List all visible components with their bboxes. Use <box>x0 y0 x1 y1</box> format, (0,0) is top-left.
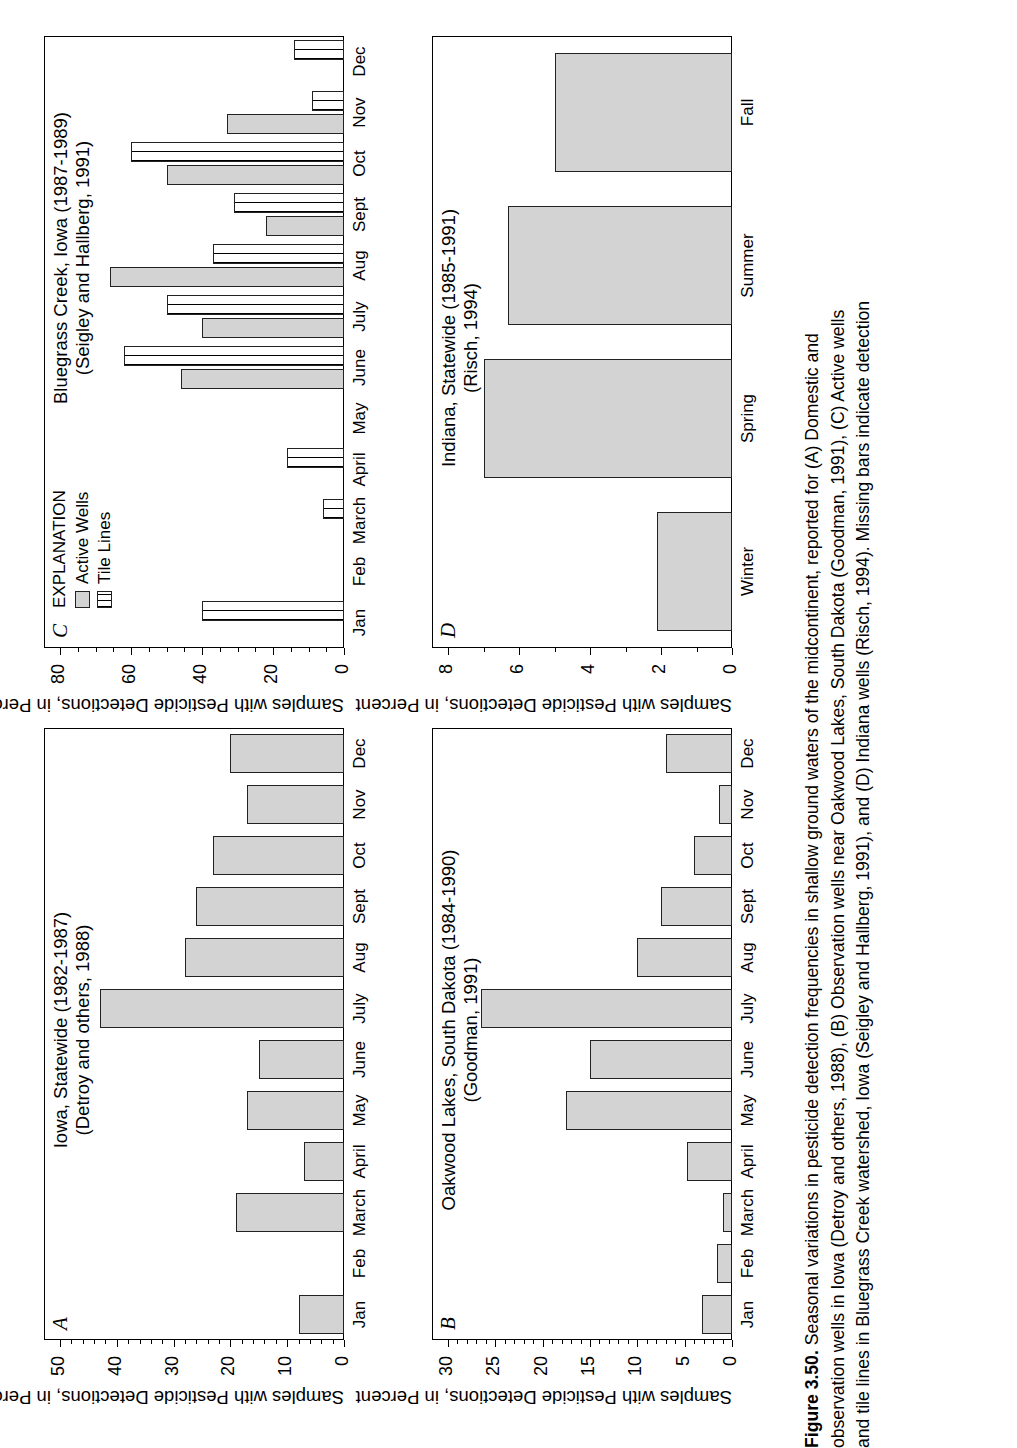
category-label: March <box>738 1187 758 1238</box>
bar <box>213 244 344 264</box>
panel-a-tick-minor <box>71 1340 72 1345</box>
panel-a-tick-minor <box>196 1340 197 1345</box>
panel-b-tick-minor <box>505 1340 506 1345</box>
panel-c-tick-major <box>344 648 345 655</box>
category-label: July <box>350 291 370 342</box>
panel-d: D Indiana, Statewide (1985-1991) (Risch,… <box>432 36 732 648</box>
bar <box>202 318 344 338</box>
panel-b-tick-major <box>685 1340 686 1347</box>
panel-d-axis-title: Samples with Pesticide Detections, in Pe… <box>356 694 732 716</box>
panel-d-tick-major <box>590 648 591 655</box>
panel-b-letter: B <box>436 1317 461 1330</box>
bar <box>304 1142 344 1182</box>
panel-c-tick-major <box>273 648 274 655</box>
panel-d-tick-minor <box>697 648 698 653</box>
category-label: Sept <box>350 189 370 240</box>
category-label: Oct <box>350 830 370 881</box>
panel-c-tick-minor <box>184 648 185 653</box>
panel-b-tick-minor <box>552 1340 553 1345</box>
panel-b: B Oakwood Lakes, South Dakota (1984-1990… <box>432 728 732 1340</box>
category-label: April <box>350 444 370 495</box>
category-label: March <box>350 1187 370 1238</box>
panel-b-tick-minor <box>704 1340 705 1345</box>
panel-a-tick-major <box>230 1340 231 1347</box>
panel-a-tick-minor <box>162 1340 163 1345</box>
panel-c-tick-minor <box>78 648 79 653</box>
bar <box>247 785 344 825</box>
panel-c-tick-minor <box>220 648 221 653</box>
panel-d-tick-minor <box>484 648 485 653</box>
bar <box>299 1295 344 1335</box>
panel-c-tick-major <box>202 648 203 655</box>
panel-a-letter: A <box>48 1317 73 1330</box>
panel-b-title: Oakwood Lakes, South Dakota (1984-1990) <box>438 750 460 1310</box>
panel-b-subtitle: (Goodman, 1991) <box>460 750 482 1310</box>
panel-a-tick-minor <box>321 1340 322 1345</box>
panel-b-tick-minor <box>694 1340 695 1345</box>
caption-text-1: Seasonal variations in pesticide detecti… <box>802 333 822 1345</box>
panel-c-tick-minor <box>113 648 114 653</box>
bar <box>234 193 344 213</box>
bar <box>312 91 344 111</box>
category-label: Sept <box>350 881 370 932</box>
bar <box>110 267 344 287</box>
legend-item-tile-lines: Tile Lines <box>95 490 114 608</box>
rotated-page: A Iowa, Statewide (1982-1987) (Detroy an… <box>0 0 1017 1448</box>
category-label: June <box>738 1034 758 1085</box>
category-label: March <box>350 495 370 546</box>
category-label: June <box>350 1034 370 1085</box>
legend-swatch-tile-lines-icon <box>97 591 112 608</box>
panel-a-tick-minor <box>185 1340 186 1345</box>
category-label: July <box>738 983 758 1034</box>
category-label: Dec <box>350 728 370 779</box>
category-label: July <box>350 983 370 1034</box>
category-label: Jan <box>350 1289 370 1340</box>
figure-number: Figure 3.50. <box>802 1350 822 1448</box>
figure-sheet: A Iowa, Statewide (1982-1987) (Detroy an… <box>0 0 1017 1448</box>
category-label: Feb <box>738 1238 758 1289</box>
category-label: Fall <box>738 36 758 189</box>
panel-b-tick-major <box>637 1340 638 1347</box>
category-label: Dec <box>350 36 370 87</box>
panel-a-tick-minor <box>94 1340 95 1345</box>
bar <box>131 142 344 162</box>
category-label: Summer <box>738 189 758 342</box>
panel-a-tick-minor <box>299 1340 300 1345</box>
panel-c-tick-minor <box>255 648 256 653</box>
panel-b-tick-minor <box>581 1340 582 1345</box>
bar <box>637 938 732 978</box>
bar <box>213 836 344 876</box>
panel-b-tick-minor <box>467 1340 468 1345</box>
bar <box>661 887 732 927</box>
panel-b-tick-minor <box>675 1340 676 1345</box>
panel-a-tick-minor <box>276 1340 277 1345</box>
legend-label-tile-lines: Tile Lines <box>95 512 115 584</box>
bar <box>723 1193 732 1233</box>
caption-line-2: observation wells in Iowa (Detroy and ot… <box>826 28 852 1448</box>
category-label: Nov <box>738 779 758 830</box>
panel-a-tick-minor <box>333 1340 334 1345</box>
bar <box>124 346 344 366</box>
panel-d-letter: D <box>436 623 461 638</box>
legend-swatch-active-wells-icon <box>75 591 90 608</box>
panel-b-tick-major <box>732 1340 733 1347</box>
bar <box>294 40 344 60</box>
bar <box>481 989 732 1029</box>
bar <box>666 734 732 774</box>
caption-line-3: and tile lines in Bluegrass Creek waters… <box>851 28 877 1448</box>
bar <box>687 1142 732 1182</box>
panel-d-title: Indiana, Statewide (1985-1991) <box>438 128 460 548</box>
panel-a-tick-minor <box>253 1340 254 1345</box>
legend: EXPLANATION Active Wells Tile Lines <box>50 490 114 608</box>
panel-d-tick-minor <box>626 648 627 653</box>
bar <box>236 1193 344 1233</box>
category-label: Aug <box>350 240 370 291</box>
category-label: Aug <box>738 932 758 983</box>
panel-a-tick-minor <box>310 1340 311 1345</box>
panel-c-tick-minor <box>96 648 97 653</box>
panel-a-tick-minor <box>264 1340 265 1345</box>
panel-b-tick-major <box>448 1340 449 1347</box>
category-label: Oct <box>738 830 758 881</box>
panel-c-tick-major <box>131 648 132 655</box>
bar <box>227 114 344 134</box>
